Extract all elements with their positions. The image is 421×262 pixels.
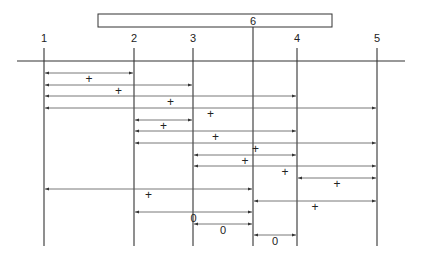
- node-label-5: 5: [374, 32, 380, 44]
- node-label-1: 1: [41, 32, 47, 44]
- interval-sign-2-5: +: [252, 142, 259, 156]
- interval-sign-3-5: +: [281, 165, 288, 179]
- interval-sign-1-2: +: [85, 72, 92, 86]
- node-label-4: 4: [294, 32, 300, 44]
- top-box: [98, 14, 332, 27]
- interval-sign-6-4: 0: [272, 235, 278, 247]
- interval-sign-2-4: +: [212, 130, 219, 144]
- interval-sign-1-6: +: [145, 188, 152, 202]
- interval-sign-4-5: +: [333, 177, 340, 191]
- node-label-3: 3: [190, 32, 196, 44]
- top-box-label: 6: [250, 15, 256, 27]
- interval-diagram: 6 12345 ++++++++++++000: [0, 0, 421, 262]
- interval-sign-6-5: +: [311, 200, 318, 214]
- interval-sign-1-4: +: [167, 95, 174, 109]
- interval-sign-3-6: 0: [220, 224, 226, 236]
- interval-sign-1-5: +: [207, 107, 214, 121]
- interval-sign-2-6: 0: [190, 212, 196, 224]
- node-label-2: 2: [131, 32, 137, 44]
